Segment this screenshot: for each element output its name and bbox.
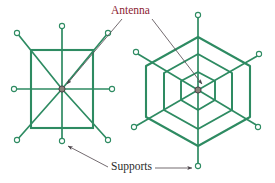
antenna-leader-left: [67, 19, 122, 84]
support-node-se: [105, 137, 110, 142]
support-node-se: [255, 124, 260, 129]
support-node-n: [59, 23, 64, 28]
support-node-ne: [256, 51, 261, 56]
supports-leader-left: [68, 146, 108, 167]
support-node-nw: [14, 30, 19, 35]
diagram-canvas: [0, 0, 275, 183]
support-node-sw: [14, 137, 19, 142]
spoke-nw: [17, 33, 62, 89]
spoke-sw: [17, 89, 62, 140]
support-node-n: [195, 12, 200, 17]
support-node-s: [195, 163, 200, 168]
left-spokes: [14, 26, 112, 141]
support-node-w: [11, 86, 16, 91]
spoke-ne: [62, 33, 108, 89]
left-support-nodes: [11, 23, 114, 143]
spoke-se: [62, 89, 108, 140]
support-node-e: [109, 86, 114, 91]
support-node-s: [59, 138, 64, 143]
right-antenna-hub: [195, 87, 201, 93]
left-structure: [11, 23, 114, 143]
antenna-leader-right: [152, 19, 202, 84]
supports-label: Supports: [111, 161, 152, 173]
antenna-support-diagram: Antenna Supports: [0, 0, 275, 183]
support-node-nw: [133, 49, 138, 54]
left-antenna-hub: [59, 86, 65, 92]
antenna-label: Antenna: [111, 5, 150, 17]
support-node-sw: [131, 124, 136, 129]
right-structure: [131, 12, 261, 168]
